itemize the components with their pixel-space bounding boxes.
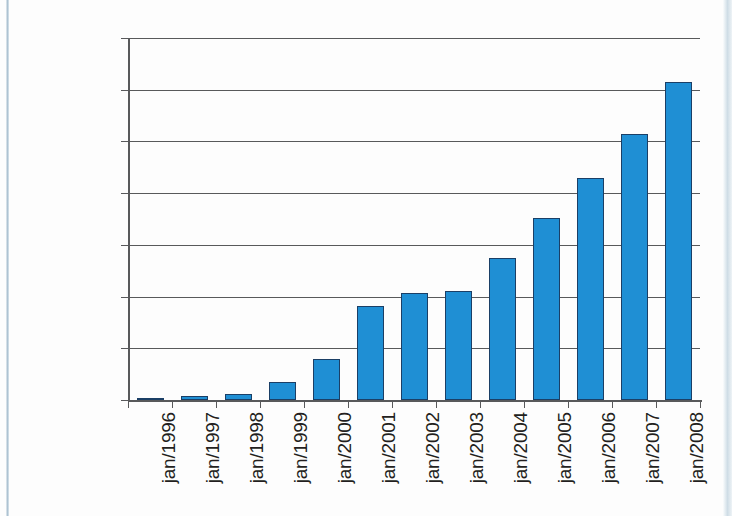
x-axis-tick [172,400,173,408]
x-axis-tick [612,400,613,408]
x-axis-tick-label: jan/1998 [246,412,268,483]
y-axis-tick [121,38,128,39]
x-axis-tick [260,400,261,408]
gridline [128,245,700,246]
x-axis-tick [348,400,349,408]
x-axis-tick [480,400,481,408]
x-axis-tick-label: jan/2004 [510,412,532,483]
gridline [128,38,700,39]
x-axis-tick-label: jan/2000 [334,412,356,483]
bar [269,382,296,400]
bar-chart: 0200.000400.000600.000800.0001.000.0001.… [0,0,732,516]
x-axis-tick-label: jan/1997 [202,412,224,483]
bar [533,218,560,400]
x-axis-tick [392,400,393,408]
y-axis-tick [121,193,128,194]
y-axis-tick [121,400,128,401]
x-axis-tick-label: jan/2003 [466,412,488,483]
x-axis-tick [304,400,305,408]
bar [357,306,384,400]
y-axis-tick [121,245,128,246]
x-axis-tick-label: jan/1996 [158,412,180,483]
y-axis-tick [121,141,128,142]
bar [621,134,648,400]
gridline [128,141,700,142]
x-axis-tick [656,400,657,408]
bar [313,359,340,400]
bar [401,293,428,400]
x-axis-tick-label: jan/2007 [642,412,664,483]
x-axis-tick-label: jan/2005 [554,412,576,483]
bar [445,291,472,400]
x-axis-labels: jan/1996jan/1997jan/1998jan/1999jan/2000… [128,400,702,516]
x-axis-tick-label: jan/2006 [598,412,620,483]
x-axis-tick [128,400,129,408]
x-axis-tick [216,400,217,408]
x-axis-tick [524,400,525,408]
x-axis-tick-label: jan/2008 [686,412,708,483]
x-axis-tick [700,400,701,408]
x-axis-tick-label: jan/2002 [422,412,444,483]
x-axis-tick-label: jan/2001 [378,412,400,483]
y-axis-tick [121,90,128,91]
y-axis-tick [121,297,128,298]
x-axis-tick-label: jan/1999 [290,412,312,483]
gridline [128,90,700,91]
bar [577,178,604,400]
plot-area: 0200.000400.000600.000800.0001.000.0001.… [128,38,700,400]
x-axis-tick [436,400,437,408]
chart-page: 0200.000400.000600.000800.0001.000.0001.… [0,0,732,516]
bar [489,258,516,400]
bar [665,82,692,400]
y-axis-tick [121,348,128,349]
gridline [128,193,700,194]
x-axis-tick [568,400,569,408]
